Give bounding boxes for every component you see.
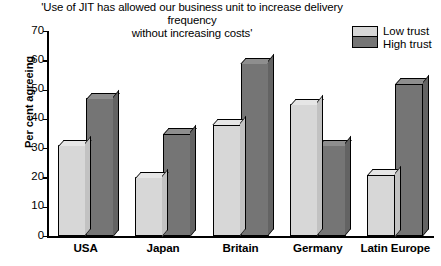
category-label-usa: USA [47, 241, 124, 254]
bar-side-face [190, 125, 196, 236]
bar-side-face [240, 116, 246, 236]
bar-side-face [395, 166, 401, 236]
y-tick-label: 0 [38, 229, 44, 242]
category-label-latin-europe: Latin Europe [357, 241, 434, 254]
y-tick-label: 20 [31, 170, 44, 183]
category-label-japan: Japan [124, 241, 201, 254]
y-axis-label: Per cent agreeing [23, 27, 35, 177]
bar-japan-low-trust [135, 177, 163, 236]
bar-side-face [113, 90, 119, 237]
y-tick-label: 50 [31, 82, 44, 95]
y-tick-label: 30 [31, 141, 44, 154]
y-tick-label: 70 [31, 24, 44, 37]
chart-title-line-1: 'Use of JIT has allowed our business uni… [24, 1, 360, 27]
bar-side-face [162, 169, 168, 236]
x-axis-line [47, 236, 434, 238]
category-label-britain: Britain [202, 241, 279, 254]
bar-side-face [85, 136, 91, 236]
y-tick-label: 40 [31, 111, 44, 124]
bar-chart: 'Use of JIT has allowed our business uni… [0, 0, 441, 266]
bar-britain-low-trust [213, 125, 241, 236]
bar-usa-low-trust [58, 145, 86, 236]
bar-germany-low-trust [290, 104, 318, 236]
y-tick-label: 60 [31, 53, 44, 66]
plot-area: 010203040506070 USAJapanBritainGermanyLa… [47, 31, 434, 236]
bar-latin-europe-low-trust [367, 175, 395, 237]
category-label-germany: Germany [279, 241, 356, 254]
bar-side-face [423, 75, 429, 236]
bar-side-face [345, 136, 351, 236]
y-tick-label: 10 [31, 199, 44, 212]
bar-side-face [268, 54, 274, 236]
y-axis-line [47, 31, 49, 236]
bar-side-face [317, 95, 323, 236]
